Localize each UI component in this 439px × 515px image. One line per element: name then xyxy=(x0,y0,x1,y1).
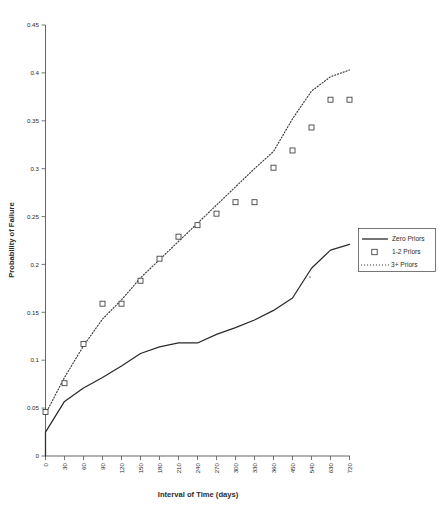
y-tick-label: 0.4 xyxy=(30,69,39,76)
x-axis-title: Interval of Time (days) xyxy=(158,490,239,499)
data-point-marker xyxy=(119,301,124,306)
data-point-marker xyxy=(138,278,143,283)
legend: Zero Priors 1-2 Priors 3+ Priors xyxy=(359,229,436,272)
y-tick-label: 0 xyxy=(36,452,40,459)
data-point-marker xyxy=(309,125,314,130)
y-tick-label: 0.15 xyxy=(27,309,40,316)
y-tick-label: 0.1 xyxy=(30,356,39,363)
probability-of-failure-chart: 0.45 0.4 0.35 0.3 0.25 0.2 0.15 0.1 0.05… xyxy=(0,0,439,515)
y-tick-label: 0.45 xyxy=(27,21,40,28)
x-tick-label: 30 xyxy=(61,462,68,469)
data-point-marker xyxy=(81,341,86,346)
legend-label: 3+ Priors xyxy=(391,261,418,268)
x-tick-label: 210 xyxy=(175,462,182,473)
data-point-marker xyxy=(157,256,162,261)
scan-speck xyxy=(309,276,311,278)
y-tick-label: 0.3 xyxy=(30,165,39,172)
x-tick-label: 120 xyxy=(118,462,125,473)
legend-square-marker-icon xyxy=(372,249,377,254)
x-tick-label: 630 xyxy=(327,462,334,473)
x-tick-label: 150 xyxy=(137,462,144,473)
data-point-marker xyxy=(347,97,352,102)
x-tick-label: 90 xyxy=(99,462,106,469)
x-tick-label: 300 xyxy=(232,462,239,473)
x-tick-label: 360 xyxy=(270,462,277,473)
y-tick-label: 0.05 xyxy=(27,404,40,411)
y-tick-label: 0.35 xyxy=(27,117,40,124)
data-point-marker xyxy=(100,301,105,306)
data-point-marker xyxy=(214,211,219,216)
x-tick-label: 180 xyxy=(156,462,163,473)
x-tick-label: 240 xyxy=(194,462,201,473)
data-point-marker xyxy=(328,97,333,102)
x-tick-label: 540 xyxy=(308,462,315,473)
x-tick-label: 270 xyxy=(213,462,220,473)
chart-figure: 0.45 0.4 0.35 0.3 0.25 0.2 0.15 0.1 0.05… xyxy=(0,0,439,515)
y-axis-title: Probability of Failure xyxy=(7,202,16,278)
data-point-marker xyxy=(195,223,200,228)
y-tick-label: 0.25 xyxy=(27,213,40,220)
data-point-marker xyxy=(252,200,257,205)
data-point-marker xyxy=(290,148,295,153)
y-tick-label: 0.2 xyxy=(30,261,39,268)
data-point-marker xyxy=(43,409,48,414)
x-tick-label: 60 xyxy=(80,462,87,469)
legend-label: Zero Priors xyxy=(392,235,425,242)
x-tick-label: 720 xyxy=(346,462,353,473)
x-tick-label: 450 xyxy=(289,462,296,473)
data-point-marker xyxy=(233,200,238,205)
data-point-marker xyxy=(271,165,276,170)
x-tick-label: 0 xyxy=(42,462,49,466)
data-point-marker xyxy=(176,234,181,239)
data-point-marker xyxy=(62,381,67,386)
legend-label: 1-2 Priors xyxy=(392,248,421,255)
x-tick-label: 330 xyxy=(251,462,258,473)
